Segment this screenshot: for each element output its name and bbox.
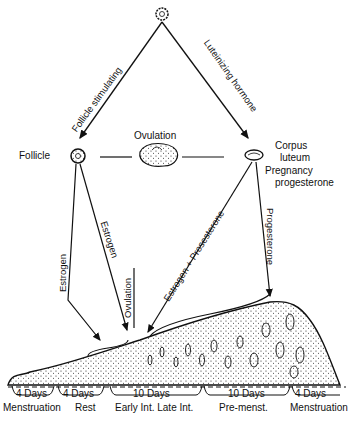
ovulation-label: Ovulation (134, 131, 176, 141)
phase-name: Menstruation (290, 403, 348, 413)
progesterone-arrow-label: Progesterone (266, 208, 276, 265)
progesterone-label: progesterone (275, 178, 334, 188)
phase-days: 4 Days (63, 389, 94, 399)
diagram-canvas (0, 0, 354, 421)
pituitary-icon (156, 8, 168, 20)
estrogen-left-label: Estrogen (58, 254, 68, 292)
corpus-luteum-icon (245, 150, 263, 160)
phase-name: Menstruation (3, 403, 61, 413)
phase-name: Rest (75, 403, 96, 413)
pregnancy-label: Pregnancy (265, 166, 313, 176)
follicle-icon (71, 149, 85, 163)
follicle-label: Follicle (19, 151, 50, 161)
ovulation-vertical-label: Ovulation (123, 278, 133, 318)
phase-days: 4 Days (295, 389, 326, 399)
phase-name: Pre-menst. (219, 403, 268, 413)
phase-days: 10 Days (133, 389, 170, 399)
phase-days: 10 Days (228, 389, 265, 399)
luteum-label: luteum (280, 153, 310, 163)
phase-name: Early Int. Late Int. (115, 403, 193, 413)
phase-days: 4 Days (16, 389, 47, 399)
corpus-label: Corpus (275, 141, 307, 151)
